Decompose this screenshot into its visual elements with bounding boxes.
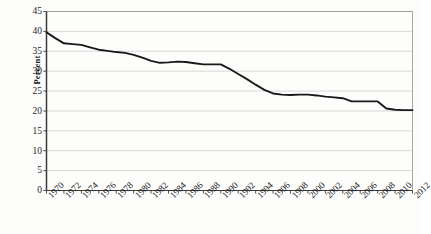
y-tick-label-text: 5 [20,165,42,175]
y-tick-label-text: 45 [20,6,42,16]
y-tick-label-text: 40 [20,26,42,36]
y-tick-label: 25 [20,86,42,96]
y-tick-label-text: 0 [20,185,42,195]
y-tick-label-text: 15 [20,126,42,136]
y-tick-label: 0 [20,185,42,195]
y-tick-label-text: 30 [20,66,42,76]
y-tick-label: 20 [20,106,42,116]
y-tick-label: 30 [20,66,42,76]
gridlines [47,12,413,171]
y-tick-label-text: 35 [20,46,42,56]
y-tick-label-text: 10 [20,146,42,156]
y-tick-label: 10 [20,146,42,156]
y-tick-label: 40 [20,26,42,36]
y-tick-label-text: 25 [20,86,42,96]
y-tick-label: 45 [20,6,42,16]
y-tick-label: 5 [20,165,42,175]
y-tick-label-text: 20 [20,106,42,116]
y-tick-label: 15 [20,126,42,136]
y-tick-label: 35 [20,46,42,56]
